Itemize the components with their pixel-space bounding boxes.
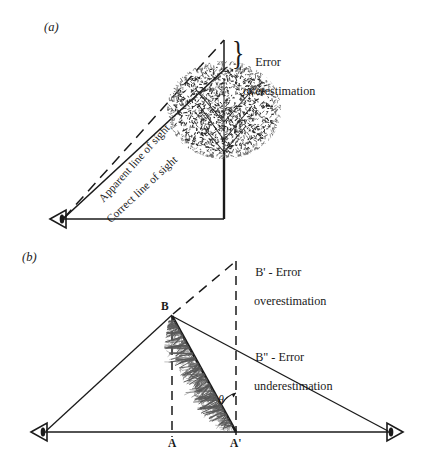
panel-b-graphics bbox=[31, 261, 403, 441]
eye-icon-right bbox=[387, 423, 403, 441]
panel-b-letter: (b) bbox=[22, 250, 37, 265]
error-callout-line2: overestimation bbox=[243, 84, 315, 98]
eye-icon-left bbox=[31, 423, 47, 441]
apex-label-B: B bbox=[161, 300, 169, 314]
b-prime-line1: B' - Error bbox=[255, 265, 301, 279]
b-double-prime-callout: B" - Error underestimation bbox=[243, 336, 333, 422]
b-double-prime-line1: B" - Error bbox=[255, 350, 304, 364]
error-callout-line1: Error bbox=[255, 55, 281, 69]
base-label-A-prime: A' bbox=[230, 437, 242, 451]
panel-a-letter: (a) bbox=[44, 20, 59, 35]
eye-icon bbox=[50, 210, 66, 228]
lean-extension-line-b bbox=[173, 261, 236, 314]
b-prime-line2: overestimation bbox=[243, 294, 326, 308]
base-label-A: A bbox=[168, 437, 176, 451]
b-prime-callout: B' - Error overestimation bbox=[243, 251, 326, 337]
figure-canvas bbox=[0, 0, 422, 467]
tree-foliage-b bbox=[154, 318, 232, 433]
b-double-prime-line2: underestimation bbox=[243, 379, 333, 393]
left-sight-line-b bbox=[46, 315, 172, 431]
angle-label-theta: θ bbox=[218, 393, 224, 407]
figure-root: (a) } Error overestimation Apparent line… bbox=[0, 0, 422, 467]
error-overestimation-callout-a: Error overestimation bbox=[243, 41, 315, 127]
